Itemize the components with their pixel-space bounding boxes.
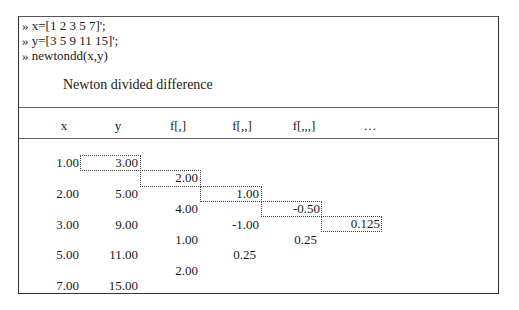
- f4-value: 0.125: [330, 217, 380, 231]
- f2-value: 1.00: [210, 187, 259, 201]
- y-value: 5.00: [90, 187, 138, 201]
- f1-value: 4.00: [150, 202, 198, 216]
- header-x: x: [44, 118, 84, 134]
- header-y: y: [98, 118, 138, 134]
- y-value: 9.00: [90, 218, 138, 232]
- header-top-rule: [19, 107, 499, 108]
- header-f2: f[,,]: [222, 118, 262, 134]
- y-value: 11.00: [90, 248, 138, 262]
- header-f3: f[,,,]: [284, 118, 324, 134]
- y-value: 15.00: [90, 279, 138, 293]
- x-value: 2.00: [40, 187, 79, 201]
- f1-value: 2.00: [150, 171, 198, 185]
- f3-value: -0.50: [270, 202, 320, 216]
- f2-value: -1.00: [210, 218, 259, 232]
- f3-value: 0.25: [270, 233, 317, 247]
- f1-value: 2.00: [150, 264, 198, 278]
- table-title: Newton divided difference: [63, 77, 213, 93]
- command-line-y: » y=[3 5 9 11 15]';: [22, 33, 118, 48]
- x-value: 7.00: [40, 279, 79, 293]
- f1-value: 1.00: [150, 233, 198, 247]
- x-value: 1.00: [40, 156, 79, 170]
- command-line-x: » x=[1 2 3 5 7]';: [22, 18, 106, 33]
- header-f1: f[,]: [158, 118, 198, 134]
- x-value: 3.00: [40, 218, 79, 232]
- header-ellipsis: …: [350, 118, 390, 134]
- y-value: 3.00: [90, 156, 138, 170]
- x-value: 5.00: [40, 248, 79, 262]
- command-line-newtondd: » newtondd(x,y): [22, 48, 108, 63]
- header-bottom-rule: [19, 138, 499, 139]
- f2-value: 0.25: [210, 248, 256, 262]
